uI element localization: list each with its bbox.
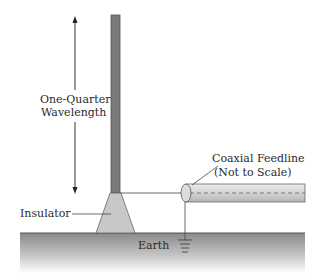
antenna-diagram: One-Quarter Wavelength Insulator Earth C… xyxy=(0,0,320,278)
wavelength-label-line1: One-Quarter xyxy=(40,93,110,106)
diagram-svg xyxy=(0,0,320,278)
wavelength-label-line2: Wavelength xyxy=(41,106,106,119)
insulator xyxy=(96,193,135,233)
insulator-label: Insulator xyxy=(20,207,71,220)
antenna-mast xyxy=(111,15,120,193)
feedline-label-line1: Coaxial Feedline xyxy=(212,152,305,165)
coaxial-feedline xyxy=(181,184,305,202)
feedline-label-line2: (Not to Scale) xyxy=(214,166,292,179)
earth-label: Earth xyxy=(138,239,169,252)
